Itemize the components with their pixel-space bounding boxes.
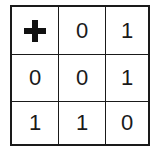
cell-r1-c2: 1 <box>106 55 148 102</box>
cell-r0-c1: 0 <box>59 7 106 55</box>
plus-icon <box>24 20 46 42</box>
cell-r0-c0 <box>12 7 59 55</box>
cell-r1-c1: 0 <box>59 55 106 102</box>
binary-grid: 0 1 0 0 1 1 1 0 <box>10 5 150 146</box>
cell-r2-c1: 1 <box>59 102 106 144</box>
cell-r2-c2: 0 <box>106 102 148 144</box>
cell-r1-c0: 0 <box>12 55 59 102</box>
cell-r0-c2: 1 <box>106 7 148 55</box>
cell-r2-c0: 1 <box>12 102 59 144</box>
